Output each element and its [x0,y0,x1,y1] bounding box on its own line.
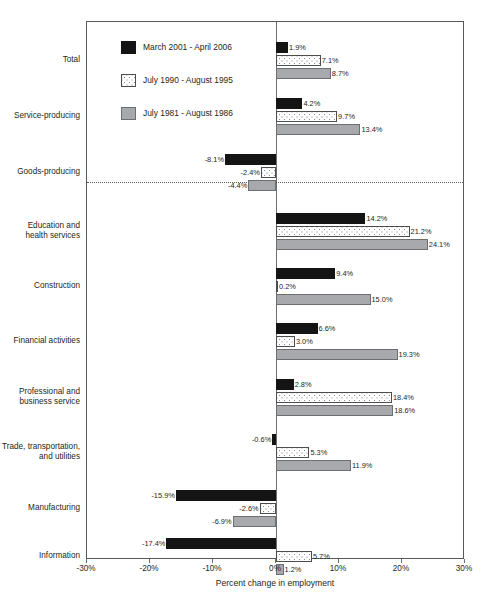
x-tick-0 [86,559,87,563]
bar-row: 3.0% [87,336,463,347]
employment-change-bar-chart: March 2001 - April 2006July 1990 - Augus… [0,0,482,598]
bar: 13.4% [276,124,360,135]
bar-value-label: 18.6% [394,405,415,416]
bar-row: 5.3% [87,447,463,458]
bar-value-label: -15.9% [151,490,174,501]
bar-row: 6.6% [87,323,463,334]
bar-value-label: 8.7% [332,68,349,79]
bar-row: -8.1% [87,154,463,165]
x-tick-label-3: 0% [245,564,305,573]
bar-value-label: 19.3% [399,349,420,360]
x-tick-label-1: -20% [119,564,179,573]
bar: 21.2% [276,226,410,237]
category-label-3: Education and health services [0,221,80,241]
bar-value-label: 13.4% [361,124,382,135]
bar-row: -2.6% [87,503,463,514]
bar-row: 14.2% [87,213,463,224]
category-label-1: Service-producing [0,111,80,121]
bar-value-label: -6.9% [212,516,231,527]
bar-value-label: 6.6% [319,323,336,334]
bar: -4.4% [248,180,276,191]
bar-row: 18.6% [87,405,463,416]
bar-row: 7.1% [87,55,463,66]
bar-row: 13.4% [87,124,463,135]
bar-row: 2.8% [87,379,463,390]
bar-row: 15.0% [87,294,463,305]
bar: 14.2% [276,213,365,224]
bar: 4.2% [276,98,302,109]
x-tick-5 [401,559,402,563]
x-axis-title: Percent change in employment [86,578,464,588]
bar-row: -6.9% [87,516,463,527]
bar: -15.9% [176,490,276,501]
bar-value-label: -4.4% [228,180,247,191]
bar-row: 21.2% [87,226,463,237]
bar: 19.3% [276,349,398,360]
bar-value-label: 5.7% [313,551,330,562]
bar-row: 24.1% [87,239,463,250]
bar: 3.0% [276,336,295,347]
bar-value-label: -0.6% [252,434,271,445]
bar-value-label: 11.9% [352,460,372,471]
bar: 5.7% [276,551,312,562]
bar-row: 11.9% [87,460,463,471]
bar: 2.8% [276,379,294,390]
bar: 1.9% [276,42,288,53]
bar: -2.6% [260,503,276,514]
bar: 9.4% [276,268,335,279]
bar-value-label: 9.7% [338,111,355,122]
bar-value-label: 7.1% [322,55,339,66]
bar: 24.1% [276,239,428,250]
bar-row: 4.2% [87,98,463,109]
bar-row: -0.6% [87,434,463,445]
x-tick-2 [212,559,213,563]
bar: -0.6% [272,434,276,445]
bar-value-label: 2.8% [295,379,312,390]
plot-area: March 2001 - April 2006July 1990 - Augus… [86,21,464,559]
bar-value-label: -17.4% [142,538,165,549]
bar-value-label: 5.3% [310,447,327,458]
bar-value-label: -2.4% [241,167,260,178]
bar: 5.3% [276,447,309,458]
category-label-9: Information [0,551,80,561]
category-label-5: Financial activities [0,336,80,346]
bar: 7.1% [276,55,321,66]
bar-value-label: 3.0% [296,336,313,347]
bar: 9.7% [276,111,337,122]
bar-row: 1.9% [87,42,463,53]
x-tick-4 [338,559,339,563]
bar: 8.7% [276,68,331,79]
bar: -17.4% [166,538,276,549]
x-tick-6 [464,559,465,563]
bar-row: 0.2% [87,281,463,292]
bar: 0.2% [276,281,278,292]
bar-value-label: 18.4% [393,392,414,403]
bar-value-label: 24.1% [429,239,450,250]
x-tick-label-5: 20% [371,564,431,573]
category-label-7: Trade, transportation, and utilities [0,442,80,462]
bar-value-label: 15.0% [372,294,393,305]
bar-value-label: 9.4% [336,268,353,279]
bar: 11.9% [276,460,351,471]
bar-value-label: -8.1% [205,154,224,165]
bar-row: 18.4% [87,392,463,403]
bar-value-label: -2.6% [239,503,258,514]
x-tick-label-2: -10% [182,564,242,573]
bar-value-label: 4.2% [303,98,320,109]
bar-row: 19.3% [87,349,463,360]
bar: 6.6% [276,323,318,334]
bar: 18.4% [276,392,392,403]
category-label-4: Construction [0,281,80,291]
bar: -8.1% [225,154,276,165]
bar-row: -2.4% [87,167,463,178]
x-tick-label-4: 10% [308,564,368,573]
bar-row: 8.7% [87,68,463,79]
bar-row: -4.4% [87,180,463,191]
category-label-2: Goods-producing [0,167,80,177]
bar-row: 9.4% [87,268,463,279]
x-tick-label-0: -30% [56,564,116,573]
bar-value-label: 14.2% [366,213,387,224]
bar: 18.6% [276,405,393,416]
x-tick-label-6: 30% [434,564,482,573]
x-tick-1 [149,559,150,563]
